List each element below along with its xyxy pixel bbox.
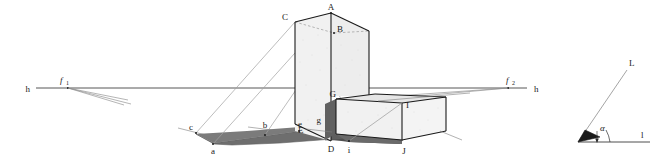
label-f2: f: [506, 75, 510, 85]
label-A: A: [328, 2, 335, 12]
label-h-right: h: [534, 84, 539, 94]
ray-f1-to-shadow-c: [68, 88, 124, 105]
label-f1-subscript: 1: [66, 80, 69, 86]
label-g: g: [317, 115, 322, 125]
lower-box-group: [325, 94, 446, 144]
label-e: e: [298, 119, 302, 129]
label-C: C: [282, 12, 288, 22]
label-I: I: [406, 100, 409, 110]
horizon-line-group: [36, 87, 527, 89]
angle-arc-alpha: [606, 130, 610, 142]
label-l: l: [641, 130, 644, 140]
label-D: D: [328, 144, 335, 154]
label-c: c: [189, 122, 193, 132]
sun-ray-C-to-c: [196, 22, 295, 133]
light-ray-fan-left: [68, 88, 131, 105]
label-alpha: α: [600, 123, 605, 133]
perspective-shadow-diagram: h h f 1 f 2 A B C D E G g I J i a b c e …: [0, 0, 661, 165]
ray-f1-to-shadow-a: [68, 88, 128, 100]
label-h-left: h: [26, 84, 31, 94]
diagram-canvas: h h f 1 f 2 A B C D E G g I J i a b c e …: [0, 0, 661, 165]
tick-at-J: [440, 131, 462, 140]
label-b: b: [263, 120, 268, 130]
box-left-dark-face: [325, 99, 336, 140]
label-G: G: [330, 89, 337, 99]
label-i: i: [348, 145, 351, 155]
label-L: L: [629, 58, 635, 68]
label-J: J: [402, 146, 406, 156]
dot-i: [348, 140, 350, 142]
dot-b: [264, 134, 266, 136]
dot-B: [333, 32, 335, 34]
label-f1: f: [60, 75, 64, 85]
dot-c: [195, 132, 197, 134]
label-B: B: [337, 24, 343, 34]
dot-a: [212, 143, 214, 145]
sun-angle-diagram: [578, 70, 650, 143]
label-f2-subscript: 2: [512, 80, 515, 86]
ray-f1-to-shadow-b: [68, 88, 131, 104]
dot-A: [330, 12, 332, 14]
label-a: a: [211, 146, 215, 156]
box-front-face: [336, 99, 402, 140]
